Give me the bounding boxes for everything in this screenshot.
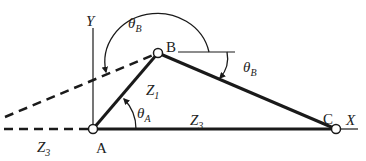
joint-b [154, 49, 163, 58]
point-a-label: A [96, 140, 107, 156]
theta-a-label: θA [137, 105, 151, 124]
theta-b-small-label: θB [243, 59, 256, 78]
theta-b-small-arc [220, 52, 228, 78]
z3-dashed-label: Z3 [37, 139, 50, 158]
point-b-label: B [166, 39, 176, 55]
joint-a [89, 125, 98, 134]
z1-label: Z1 [146, 82, 159, 101]
theta-b-large-arc [105, 13, 209, 72]
x-axis-label: X [345, 112, 356, 128]
theta-a-arc [124, 99, 136, 129]
linkage-diagram: Y X A B C Z1 Z3 Z3 θA θB θB [0, 0, 366, 161]
point-c-label: C [323, 111, 333, 127]
y-axis-label: Y [86, 13, 96, 29]
theta-b-large-label: θB [128, 15, 141, 34]
